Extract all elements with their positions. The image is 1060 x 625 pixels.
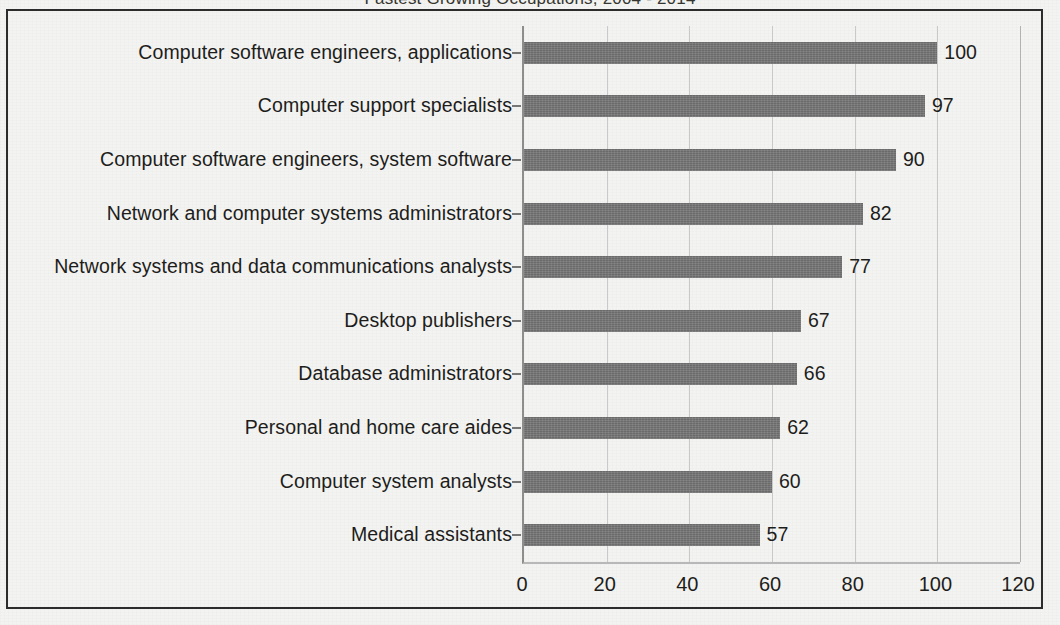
category-tick-mark — [512, 105, 521, 107]
bar-value-label: 97 — [932, 96, 954, 116]
x-tick-label-20: 20 — [594, 574, 616, 594]
bar-value-label: 100 — [944, 43, 977, 63]
bar-value-label: 90 — [903, 150, 925, 170]
bar — [524, 417, 780, 439]
category-tick-mark — [512, 159, 521, 161]
bar — [524, 524, 760, 546]
category-tick-mark — [512, 481, 521, 483]
bar — [524, 310, 801, 332]
x-tick-label-80: 80 — [842, 574, 864, 594]
category-label: Database administrators — [298, 364, 512, 384]
bar-value-label: 57 — [767, 525, 789, 545]
x-tick-label-40: 40 — [676, 574, 698, 594]
category-tick-mark — [512, 52, 521, 54]
category-label: Medical assistants — [351, 525, 512, 545]
category-tick-mark — [512, 427, 521, 429]
bar — [524, 363, 797, 385]
bar-value-label: 67 — [808, 311, 830, 331]
category-tick-mark — [512, 373, 521, 375]
category-label: Network systems and data communications … — [54, 257, 512, 277]
x-tick-label-120: 120 — [1001, 574, 1034, 594]
category-tick-mark — [512, 534, 521, 536]
bar — [524, 471, 772, 493]
gridline-120 — [1020, 26, 1021, 562]
x-tick-label-60: 60 — [759, 574, 781, 594]
category-label: Desktop publishers — [344, 311, 512, 331]
bar-value-label: 62 — [787, 418, 809, 438]
bar-value-label: 77 — [849, 257, 871, 277]
category-tick-mark — [512, 320, 521, 322]
category-tick-mark — [512, 213, 521, 215]
bar — [524, 256, 842, 278]
bar-value-label: 82 — [870, 204, 892, 224]
category-label: Computer system analysts — [280, 472, 512, 492]
x-tick-label-0: 0 — [516, 574, 527, 594]
category-label: Personal and home care aides — [245, 418, 512, 438]
bar — [524, 149, 896, 171]
category-tick-mark — [512, 266, 521, 268]
bar-value-label: 60 — [779, 472, 801, 492]
bar-value-label: 66 — [804, 364, 826, 384]
bar-chart: Computer software engineers, application… — [0, 0, 1060, 625]
category-label: Computer support specialists — [258, 96, 512, 116]
x-tick-label-100: 100 — [919, 574, 952, 594]
category-label: Network and computer systems administrat… — [107, 204, 512, 224]
category-label: Computer software engineers, system soft… — [100, 150, 512, 170]
category-label: Computer software engineers, application… — [138, 43, 512, 63]
bar — [524, 95, 925, 117]
bar — [524, 203, 863, 225]
bar — [524, 42, 937, 64]
